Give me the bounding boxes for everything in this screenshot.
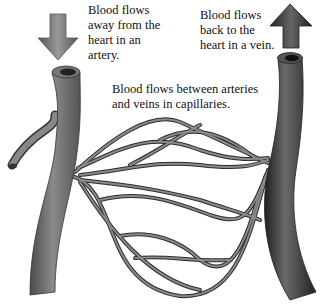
vein-vessel (264, 53, 316, 301)
artery-arrow-icon (38, 14, 78, 60)
artery-label: Blood flows away from the heart in an ar… (88, 3, 160, 63)
artery-vessel (9, 66, 80, 295)
vein-arrow-icon (270, 4, 312, 48)
capillaries-label: Blood flows between arteries and veins i… (112, 82, 258, 112)
blood-vessel-diagram: Blood flows away from the heart in an ar… (0, 0, 326, 307)
vein-label: Blood flows back to the heart in a vein. (200, 8, 274, 53)
vessel-illustration (0, 0, 326, 307)
